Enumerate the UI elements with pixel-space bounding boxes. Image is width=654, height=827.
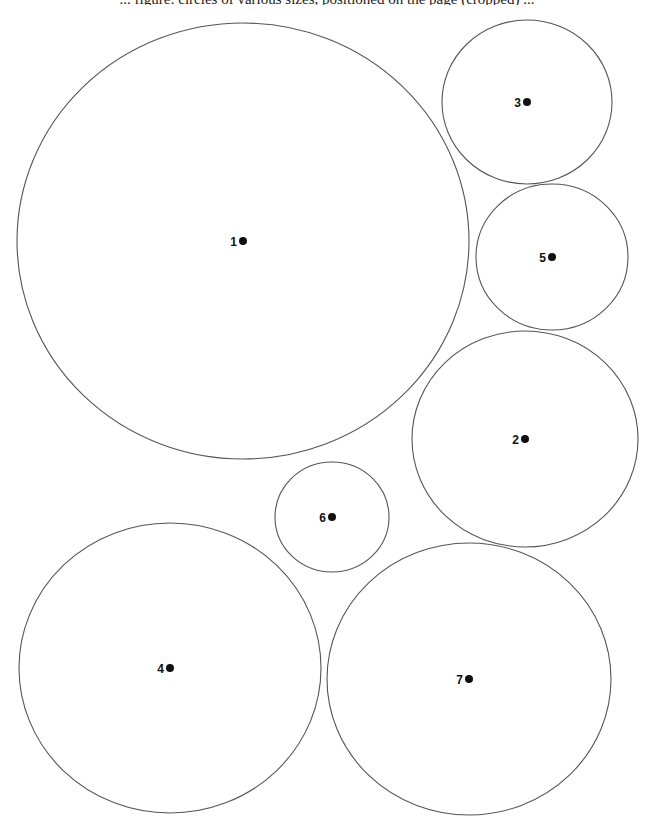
center-dot-icon (523, 98, 531, 106)
circle-5: 5 (476, 184, 628, 330)
circle-number-label: 4 (157, 662, 164, 676)
circle-2: 2 (412, 331, 638, 547)
circle-number-label: 7 (456, 673, 463, 687)
circle-diagram: 1234567 (0, 0, 654, 827)
center-dot-icon (166, 664, 174, 672)
circle-number-label: 3 (514, 96, 521, 110)
center-dot-icon (521, 435, 529, 443)
center-dot-icon (328, 513, 336, 521)
circle-4: 4 (19, 523, 321, 813)
circle-number-label: 6 (319, 511, 326, 525)
center-dot-icon (239, 237, 247, 245)
circle-6: 6 (275, 462, 389, 572)
circle-number-label: 5 (539, 251, 546, 265)
center-dot-icon (465, 675, 473, 683)
center-dot-icon (548, 253, 556, 261)
circle-3: 3 (442, 20, 612, 184)
circle-number-label: 2 (512, 433, 519, 447)
circle-7: 7 (327, 543, 611, 815)
circle-number-label: 1 (230, 235, 237, 249)
circle-1: 1 (17, 23, 469, 459)
